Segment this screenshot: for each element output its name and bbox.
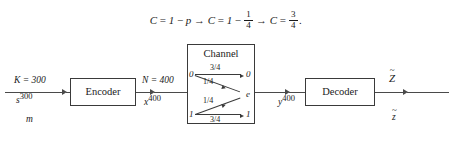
- channel-input-node-0: 0: [189, 70, 194, 79]
- channel-prob-0-to-e: 1/4: [203, 78, 213, 86]
- fraction-numerator: 1: [244, 10, 253, 19]
- formula-p: p: [186, 14, 192, 26]
- formula-period: .: [299, 14, 302, 26]
- signal-label-K: K = 300: [14, 75, 46, 85]
- decoder-label: Decoder: [306, 86, 374, 97]
- formula-C1: C: [150, 14, 158, 26]
- channel-edge-0-to-0: [195, 74, 241, 75]
- channel-prob-1-to-1: 3/4: [210, 116, 220, 124]
- formula-C3: C: [270, 14, 278, 26]
- signal-y-length: 400: [282, 93, 295, 103]
- formula-one2: 1: [227, 14, 233, 26]
- formula-fraction-three-quarters: 34: [289, 10, 298, 30]
- formula-minus1: −: [177, 14, 183, 26]
- signal-label-x: x400: [144, 97, 161, 107]
- wire-channel-to-decoder-a: [255, 92, 285, 93]
- wire-decoder-to-sink-b: [407, 92, 449, 93]
- signal-x-length: 400: [148, 93, 161, 103]
- channel-prob-1-to-e: 1/4: [203, 97, 213, 105]
- channel-edge-0-to-0-arrowhead: [240, 74, 244, 78]
- tilde-wrapper-z: ~z: [392, 112, 396, 122]
- fraction-numerator: 3: [289, 10, 298, 19]
- capacity-formula: C=1−p→C=1−14→C=34.: [0, 10, 452, 30]
- encoder-label: Encoder: [71, 86, 135, 97]
- channel-edge-1-to-1-arrowhead: [240, 114, 244, 118]
- signal-label-s: s300: [16, 95, 32, 105]
- channel-output-node-1: 1: [246, 110, 251, 119]
- formula-eq1: =: [160, 14, 166, 26]
- formula-eq3: =: [280, 14, 286, 26]
- channel-output-node-0: 0: [246, 70, 251, 79]
- channel-output-node-e: e: [246, 90, 250, 99]
- signal-label-m: m: [26, 114, 33, 124]
- channel-label: Channel: [187, 48, 255, 59]
- encoder-block: Encoder: [70, 78, 136, 106]
- channel-prob-0-to-0: 3/4: [210, 64, 220, 72]
- channel-input-node-1: 1: [189, 110, 194, 119]
- tilde-accent-z: ~: [392, 105, 396, 115]
- signal-s-length: 300: [20, 91, 33, 101]
- formula-fraction-one-quarter: 14: [244, 10, 253, 30]
- signal-label-Z-hat: ~Z: [389, 72, 395, 84]
- fraction-denominator: 4: [289, 21, 298, 30]
- decoder-block: Decoder: [305, 78, 375, 106]
- fraction-denominator: 4: [244, 21, 253, 30]
- formula-arrow2: →: [256, 14, 267, 26]
- signal-label-N: N = 400: [142, 75, 174, 85]
- formula-arrow1: →: [194, 14, 205, 26]
- wire-source-to-encoder: [5, 92, 63, 93]
- signal-label-z: ~z: [392, 112, 396, 122]
- signal-label-y: y400: [278, 97, 295, 107]
- tilde-accent-Z: ~: [389, 65, 395, 75]
- formula-eq2: =: [218, 14, 224, 26]
- wire-decoder-to-sink-a: [375, 92, 403, 93]
- diagram-canvas: C=1−p→C=1−14→C=34. Encoder Decoder Chann…: [0, 0, 452, 141]
- formula-C2: C: [208, 14, 216, 26]
- formula-minus2: −: [235, 14, 241, 26]
- formula-one1: 1: [169, 14, 175, 26]
- tilde-wrapper-Z: ~Z: [389, 72, 395, 84]
